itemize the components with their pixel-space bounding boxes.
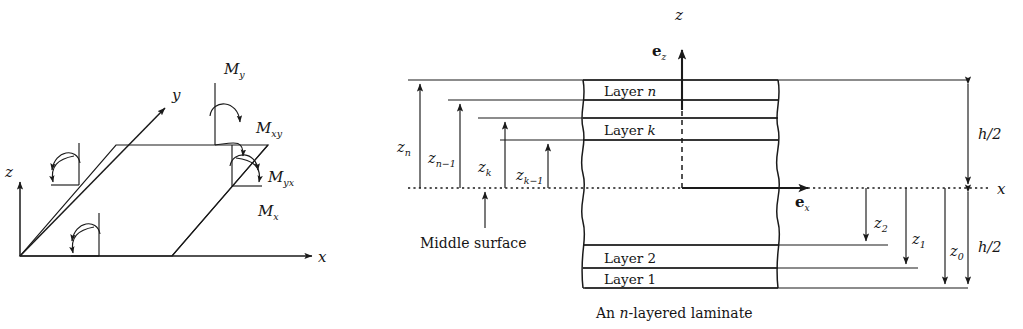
z-k-minus-1-label: zk−1 [515,167,543,186]
plate-parallelogram [20,145,268,256]
moment-Myx-label: Myx [267,168,295,188]
axis-y-left-label: y [171,86,181,104]
composite-figure: z x y My Mxy [0,0,1023,329]
axis-x-left-label: x [318,248,327,266]
z-n-minus-1-label: zn−1 [427,150,456,169]
z-dimension-arrows-lower: z2 z1 z0 [866,188,964,284]
h-over-2-upper-label: h/2 [978,126,1001,142]
axis-z-left-label: z [4,163,13,181]
left-panel-plate: z x y My Mxy [4,60,327,266]
layer-n-label: Layer n [604,83,656,99]
layer-1-label: Layer 1 [604,271,656,287]
right-panel-laminate: x z ez ex [396,6,1006,321]
axis-x-right-label: x [997,180,1006,198]
laminate-caption: An n-layered laminate [595,305,753,321]
moment-Mxy-label: Mxy [255,119,283,139]
basis-vector-ex: ex [682,188,810,213]
moment-Myx-group: Myx Mx [230,145,295,222]
z-n-label: zn [396,139,411,158]
basis-vector-ex-label: ex [795,193,810,213]
moment-Mx-label: Mx [257,202,279,222]
axis-z-left: z [4,163,20,256]
axis-x-left: x [20,248,327,266]
z-k-label: zk [477,159,492,178]
axis-z-right-label: z [674,6,683,24]
z-0-label: z0 [949,243,964,262]
moment-My-group: My Mxy [210,60,283,156]
layer-k-label: Layer k [604,122,656,138]
layer-2-label: Layer 2 [604,250,656,266]
z-2-label: z2 [873,215,888,234]
h-over-2-lower-label: h/2 [978,239,1001,255]
moment-My-label: My [223,60,245,80]
moment-opposite-lower [71,213,100,256]
middle-surface-label: Middle surface [420,235,527,251]
axis-z-right: z ez [652,6,683,188]
axis-y-left: y [20,86,181,256]
moment-opposite-upper [51,143,80,185]
basis-vector-ez-label: ez [652,42,667,62]
figure-canvas: z x y My Mxy [0,0,1023,329]
middle-surface-annotation: Middle surface [420,192,527,251]
z-1-label: z1 [911,231,926,250]
